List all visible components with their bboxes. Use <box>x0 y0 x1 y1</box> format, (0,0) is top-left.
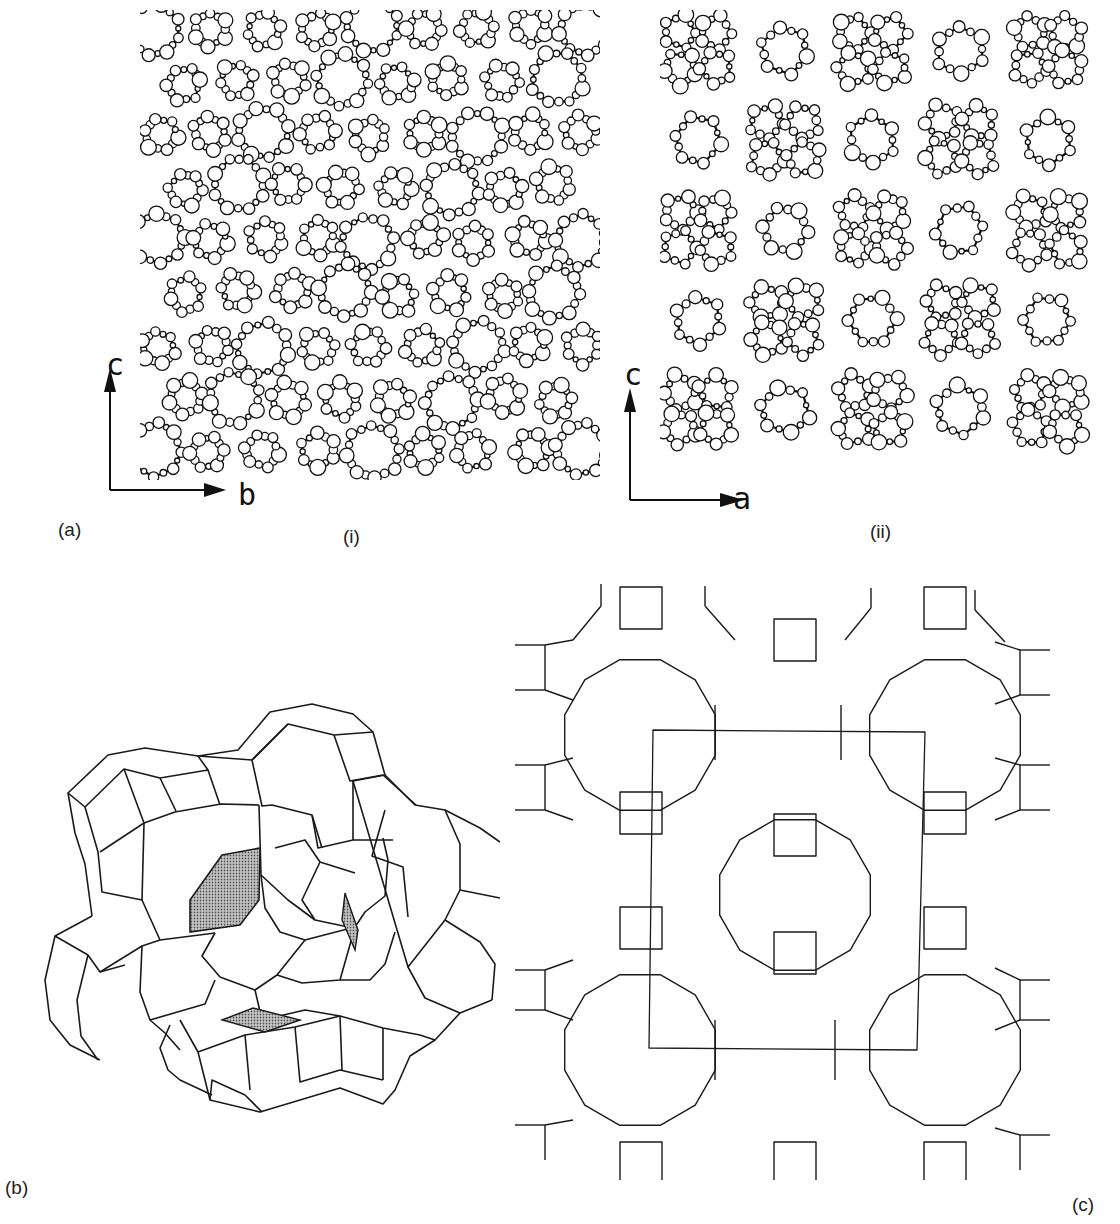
axis-label-b: b <box>238 480 256 510</box>
panel-label-b: (b) <box>5 1178 28 1197</box>
sublabel-i: (i) <box>343 527 360 546</box>
axis-label-a: a <box>733 484 751 514</box>
polyhedral-cage-diagram <box>40 680 500 1140</box>
panel-label-c: (c) <box>1072 1195 1094 1214</box>
panel-b-cage <box>40 680 500 1140</box>
panel-c-net <box>505 580 1060 1180</box>
shaded-window-face <box>342 893 358 950</box>
shaded-window-face <box>190 848 260 932</box>
panel-label-a: (a) <box>58 520 81 539</box>
axis-label-c-a-ii: c <box>624 360 642 390</box>
sublabel-ii: (ii) <box>870 522 891 541</box>
axis-label-c-a-i: c <box>106 350 124 380</box>
framework-net-diagram <box>505 580 1060 1180</box>
